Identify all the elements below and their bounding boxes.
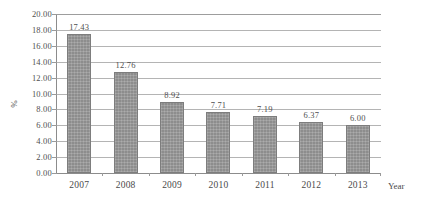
bar — [67, 34, 91, 173]
bar — [299, 122, 323, 173]
bar-slot: 7.71 — [195, 14, 241, 173]
x-axis-tick-label: 2007 — [56, 179, 102, 191]
bar-slot: 17.43 — [56, 14, 102, 173]
y-axis-tick-label: 12.00 — [18, 74, 52, 82]
y-axis-tick-mark — [52, 157, 57, 158]
y-axis-tick-label: 8.00 — [18, 105, 52, 113]
x-axis-title: Year — [388, 180, 405, 192]
bar-slot: 6.00 — [335, 14, 381, 173]
y-axis-tick-label: 14.00 — [18, 58, 52, 66]
bar-chart-figure: % 20.0018.0016.0014.0012.0010.008.006.00… — [0, 0, 423, 209]
y-axis-tick-mark — [52, 94, 57, 95]
y-axis-tick-mark — [52, 30, 57, 31]
bar-slot: 8.92 — [149, 14, 195, 173]
bar-slot: 12.76 — [102, 14, 148, 173]
bar — [114, 72, 138, 173]
x-axis-tick-mark — [335, 173, 336, 176]
y-axis-tick-mark — [52, 62, 57, 63]
y-axis-tick-label: 10.00 — [18, 90, 52, 98]
y-axis-tick-labels: 20.0018.0016.0014.0012.0010.008.006.004.… — [18, 11, 52, 173]
x-axis-tick-mark — [380, 173, 381, 176]
x-axis-tick-marks — [56, 173, 381, 177]
y-axis-tick-label: 2.00 — [18, 153, 52, 161]
x-axis-tick-mark — [102, 173, 103, 176]
bar-value-label: 12.76 — [116, 61, 136, 70]
x-axis-tick-mark — [288, 173, 289, 176]
bar — [346, 125, 370, 173]
y-axis-tick-label: 0.00 — [18, 169, 52, 177]
bar-slot: 6.37 — [288, 14, 334, 173]
y-axis-tick-label: 6.00 — [18, 121, 52, 129]
bar-value-label: 6.00 — [350, 114, 366, 123]
x-axis-tick-label: 2010 — [196, 179, 242, 191]
x-axis-tick-label: 2008 — [103, 179, 149, 191]
bar-value-label: 8.92 — [164, 91, 180, 100]
bar — [253, 116, 277, 173]
x-axis-tick-mark — [242, 173, 243, 176]
x-axis-tick-label: 2011 — [242, 179, 288, 191]
y-axis-tick-label: 20.00 — [18, 10, 52, 18]
y-axis-tick-mark — [52, 125, 57, 126]
x-axis-tick-mark — [195, 173, 196, 176]
y-axis-tick-label: 16.00 — [18, 42, 52, 50]
bar-value-label: 17.43 — [69, 23, 89, 32]
x-axis-tick-label: 2009 — [149, 179, 195, 191]
x-axis-tick-labels: 2007200820092010201120122013 — [56, 179, 381, 195]
bar — [206, 112, 230, 173]
x-axis-tick-label: 2013 — [335, 179, 381, 191]
y-axis-tick-mark — [52, 78, 57, 79]
y-axis-tick-label: 4.00 — [18, 137, 52, 145]
bar — [160, 102, 184, 173]
bar-value-label: 7.71 — [211, 101, 227, 110]
y-axis-tick-label: 18.00 — [18, 26, 52, 34]
y-axis-tick-mark — [52, 173, 57, 174]
x-axis-tick-mark — [149, 173, 150, 176]
bar-value-label: 6.37 — [304, 111, 320, 120]
y-axis-tick-mark — [52, 14, 57, 15]
y-axis-tick-mark — [52, 109, 57, 110]
y-axis-tick-mark — [52, 46, 57, 47]
x-axis-tick-label: 2012 — [288, 179, 334, 191]
bar-slot: 7.19 — [242, 14, 288, 173]
y-axis-tick-mark — [52, 141, 57, 142]
bar-value-label: 7.19 — [257, 105, 273, 114]
plot-area: 17.4312.768.927.717.196.376.00 — [56, 14, 381, 173]
